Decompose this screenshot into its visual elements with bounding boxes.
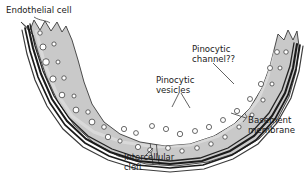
vesicle: [135, 144, 140, 149]
vesicle: [195, 146, 200, 151]
vesicle: [258, 81, 263, 86]
vesicle: [275, 50, 280, 55]
vesicle: [134, 131, 139, 136]
vesicle: [180, 149, 184, 153]
label-pinocytic-channel-line1: Pinocytic: [192, 44, 231, 54]
vesicle: [40, 44, 46, 50]
vesicle: [89, 119, 95, 125]
vesicle: [248, 97, 253, 102]
label-pinocytic-vesicles-line1: Pinocytic: [156, 75, 195, 85]
vesicle: [73, 107, 79, 113]
label-pinocytic-channel-line2: channel??: [192, 54, 235, 64]
vesicle: [270, 82, 274, 86]
vesicle: [223, 135, 227, 139]
label-pinocytic-channel: Pinocytic channel??: [192, 44, 235, 64]
vesicle: [268, 66, 273, 71]
vesicle: [86, 110, 90, 114]
label-basement-membrane-line1: Basement: [248, 115, 292, 125]
vesicle: [193, 129, 198, 134]
vesicle: [166, 146, 171, 151]
vesicle: [43, 59, 50, 66]
vesicle: [52, 42, 56, 46]
label-intercellular-cleft-line1: Intercellular: [124, 152, 175, 162]
vesicle: [38, 31, 42, 35]
vesicle: [72, 94, 76, 98]
vesicle: [105, 134, 110, 139]
vesicle: [221, 118, 226, 123]
vesicle: [237, 125, 241, 129]
label-pinocytic-vesicles: Pinocytic vesicles: [156, 75, 195, 95]
vesicle: [261, 98, 265, 102]
vesicle: [59, 92, 65, 98]
vesicle: [206, 124, 211, 129]
vesicle: [56, 60, 60, 64]
diagram-canvas: Endothelial cell Pinocytic channel?? Pin…: [0, 0, 305, 181]
label-basement-membrane-line2: membrane: [248, 125, 295, 135]
vesicle: [150, 124, 155, 129]
vesicle: [102, 125, 107, 130]
vesicle: [163, 126, 168, 131]
vesicle: [121, 126, 126, 131]
vesicle: [50, 76, 56, 82]
label-pinocytic-vesicles-line2: vesicles: [156, 85, 191, 95]
label-basement-membrane: Basement membrane: [248, 115, 295, 135]
vesicle: [234, 108, 239, 113]
vesicle: [278, 66, 282, 70]
vesicle: [62, 76, 66, 80]
capillary-wall-diagram: Endothelial cell Pinocytic channel?? Pin…: [0, 0, 305, 181]
vesicle: [177, 131, 182, 136]
vesicle: [118, 139, 122, 143]
label-intercellular-cleft-line2: cleft: [124, 162, 143, 172]
vesicle: [284, 50, 288, 54]
label-endothelial-cell: Endothelial cell: [6, 5, 72, 15]
vesicle: [209, 142, 213, 146]
